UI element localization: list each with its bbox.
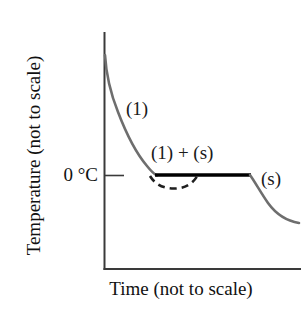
- y-axis-title: Temperature (not to scale): [14, 0, 54, 311]
- supercooling-dashed-dip: [150, 176, 197, 189]
- cooling-curve-figure: Temperature (not to scale) Time (not to …: [0, 0, 306, 311]
- annotation-liquid-plus-solid: (1) + (s): [151, 142, 213, 164]
- annotation-solid: (s): [261, 168, 281, 190]
- x-axis-title: Time (not to scale): [0, 278, 306, 300]
- y-tick-label-zero: 0 °C: [44, 164, 98, 186]
- annotation-liquid: (1): [126, 98, 148, 120]
